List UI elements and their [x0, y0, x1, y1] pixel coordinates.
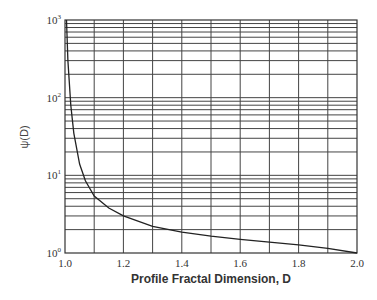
y-tick-label: 102 [47, 91, 62, 104]
x-tick-label: 2.0 [350, 257, 364, 269]
x-tick-label: 1.2 [117, 257, 131, 269]
x-tick-label: 1.0 [58, 257, 72, 269]
y-tick-label: 103 [47, 13, 62, 26]
grid [65, 20, 357, 253]
psi-curve [67, 20, 358, 253]
y-tick-label: 101 [47, 168, 62, 181]
y-tick-labels: 100101102103 [47, 13, 62, 259]
chart: 1.01.21.41.61.82.0 100101102103 Profile … [0, 0, 377, 300]
x-tick-labels: 1.01.21.41.61.82.0 [58, 257, 364, 269]
x-tick-label: 1.8 [292, 257, 306, 269]
x-tick-label: 1.4 [175, 257, 189, 269]
x-axis-label: Profile Fractal Dimension, D [131, 272, 291, 286]
x-tick-label: 1.6 [233, 257, 247, 269]
y-axis-label: ψ(D) [18, 125, 30, 148]
